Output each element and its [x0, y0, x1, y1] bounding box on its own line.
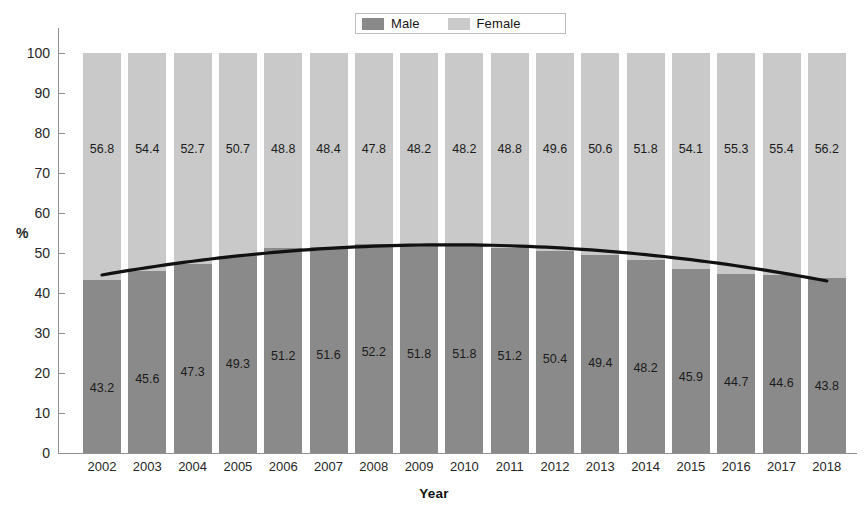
- y-axis-tick-label: 100: [8, 46, 50, 60]
- bar-value-label-male: 51.2: [491, 350, 529, 363]
- bar-segment-female[interactable]: 54.4: [128, 53, 166, 271]
- bar-value-label-male: 43.2: [83, 382, 121, 395]
- x-axis-tick-label: 2007: [304, 460, 354, 474]
- y-axis-tick-label: 0: [8, 446, 50, 460]
- bar-value-label-male: 49.3: [219, 358, 257, 371]
- bar-value-label-female: 51.8: [627, 143, 665, 156]
- bar-value-label-male: 43.8: [808, 380, 846, 393]
- x-axis-tick-label: 2014: [621, 460, 671, 474]
- x-axis-tick-label: 2003: [122, 460, 172, 474]
- bar-segment-male[interactable]: 49.4: [581, 255, 619, 453]
- x-axis-tick-label: 2011: [485, 460, 535, 474]
- bar-segment-male[interactable]: 49.3: [219, 256, 257, 453]
- bar-segment-female[interactable]: 55.4: [763, 53, 801, 275]
- bar-segment-female[interactable]: 48.2: [400, 53, 438, 246]
- bar-segment-male[interactable]: 43.8: [808, 278, 846, 453]
- bar-segment-female[interactable]: 48.8: [491, 53, 529, 248]
- bar-segment-female[interactable]: 47.8: [355, 53, 393, 244]
- bar-value-label-male: 51.2: [264, 350, 302, 363]
- bar-segment-female[interactable]: 54.1: [672, 53, 710, 269]
- chart-legend: Male Female: [355, 13, 566, 34]
- bar-value-label-female: 48.8: [491, 143, 529, 156]
- y-axis-tick: [58, 53, 65, 54]
- bar-segment-female[interactable]: 49.6: [536, 53, 574, 251]
- bar-segment-male[interactable]: 44.7: [717, 274, 755, 453]
- bar-value-label-female: 50.7: [219, 143, 257, 156]
- bar-value-label-female: 48.2: [400, 143, 438, 156]
- bar-value-label-female: 54.1: [672, 143, 710, 156]
- bar-segment-female[interactable]: 48.2: [445, 53, 483, 246]
- legend-swatch-female-icon: [448, 18, 470, 30]
- y-axis-title: %: [16, 226, 28, 240]
- x-axis-tick-label: 2008: [349, 460, 399, 474]
- bar-segment-male[interactable]: 44.6: [763, 275, 801, 453]
- y-axis-tick-label: 30: [8, 326, 50, 340]
- y-axis-tick: [58, 333, 65, 334]
- bar-segment-female[interactable]: 51.8: [627, 53, 665, 260]
- bar-value-label-male: 51.8: [445, 348, 483, 361]
- bar-value-label-female: 55.3: [717, 143, 755, 156]
- bar-value-label-male: 47.3: [174, 366, 212, 379]
- x-axis-tick-label: 2016: [711, 460, 761, 474]
- bar-segment-male[interactable]: 48.2: [627, 260, 665, 453]
- y-axis-tick: [58, 133, 65, 134]
- y-axis-tick: [58, 213, 65, 214]
- x-axis-tick-label: 2010: [439, 460, 489, 474]
- bar-value-label-male: 44.7: [717, 376, 755, 389]
- bar-segment-male[interactable]: 51.8: [400, 246, 438, 453]
- bar-value-label-female: 49.6: [536, 143, 574, 156]
- bar-segment-female[interactable]: 55.3: [717, 53, 755, 274]
- y-axis-tick-label: 70: [8, 166, 50, 180]
- bar-value-label-male: 48.2: [627, 362, 665, 375]
- y-axis-tick-label: 60: [8, 206, 50, 220]
- bar-value-label-female: 50.6: [581, 143, 619, 156]
- x-axis-title: Year: [0, 486, 868, 501]
- bar-segment-female[interactable]: 56.2: [808, 53, 846, 278]
- y-axis-tick: [58, 293, 65, 294]
- y-axis-tick-label: 10: [8, 406, 50, 420]
- bar-segment-male[interactable]: 51.2: [264, 248, 302, 453]
- y-axis-tick-label: 50: [8, 246, 50, 260]
- bar-segment-female[interactable]: 50.6: [581, 53, 619, 255]
- x-axis-tick-label: 2013: [575, 460, 625, 474]
- bar-segment-female[interactable]: 48.4: [310, 53, 348, 247]
- x-axis-tick-label: 2017: [757, 460, 807, 474]
- y-axis-tick-label: 90: [8, 86, 50, 100]
- bar-segment-male[interactable]: 50.4: [536, 251, 574, 453]
- bar-value-label-male: 51.8: [400, 348, 438, 361]
- bar-segment-male[interactable]: 51.2: [491, 248, 529, 453]
- bar-segment-male[interactable]: 51.8: [445, 246, 483, 453]
- bar-segment-female[interactable]: 50.7: [219, 53, 257, 256]
- x-axis-line: [58, 453, 857, 454]
- bar-segment-female[interactable]: 52.7: [174, 53, 212, 264]
- bar-segment-male[interactable]: 51.6: [310, 247, 348, 453]
- y-axis-tick: [58, 373, 65, 374]
- bar-value-label-female: 52.7: [174, 143, 212, 156]
- y-axis-tick-label: 80: [8, 126, 50, 140]
- bar-segment-male[interactable]: 45.6: [128, 271, 166, 453]
- bar-segment-male[interactable]: 47.3: [174, 264, 212, 453]
- y-axis-line: [58, 28, 59, 454]
- bar-segment-female[interactable]: 48.8: [264, 53, 302, 248]
- bar-value-label-male: 45.6: [128, 373, 166, 386]
- legend-item-female[interactable]: Female: [448, 17, 521, 30]
- x-axis-tick-label: 2018: [802, 460, 852, 474]
- x-axis-tick-label: 2012: [530, 460, 580, 474]
- bar-value-label-female: 56.8: [83, 143, 121, 156]
- legend-item-male[interactable]: Male: [362, 17, 420, 30]
- bar-segment-male[interactable]: 43.2: [83, 280, 121, 453]
- bar-value-label-male: 52.2: [355, 346, 393, 359]
- x-axis-tick-label: 2002: [77, 460, 127, 474]
- bar-segment-female[interactable]: 56.8: [83, 53, 121, 280]
- y-axis-tick-label: 20: [8, 366, 50, 380]
- bar-value-label-female: 54.4: [128, 143, 166, 156]
- bar-segment-male[interactable]: 52.2: [355, 244, 393, 453]
- bar-value-label-male: 50.4: [536, 353, 574, 366]
- x-axis-tick-label: 2006: [258, 460, 308, 474]
- bar-segment-male[interactable]: 45.9: [672, 269, 710, 453]
- x-axis-tick-label: 2015: [666, 460, 716, 474]
- y-axis-tick: [58, 173, 65, 174]
- bar-value-label-female: 55.4: [763, 143, 801, 156]
- bar-value-label-female: 56.2: [808, 143, 846, 156]
- y-axis-tick: [58, 453, 65, 454]
